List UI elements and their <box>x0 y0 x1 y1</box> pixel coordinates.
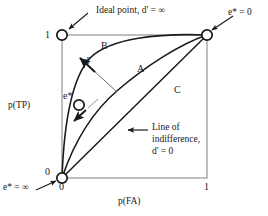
dprime-label: d' <box>84 55 91 66</box>
annotation-estar-infinity: e* = ∞ <box>3 182 29 193</box>
estar-direction-arrow <box>74 110 86 121</box>
y-tick-0: 0 <box>45 166 50 177</box>
marker-estar-operating-point <box>74 100 84 110</box>
annotation-indifference-line1: Line of <box>152 122 180 133</box>
leader-estar-zero <box>212 16 233 30</box>
roc-diagram-figure: Ideal point, d' = ∞ e* = 0 e* = ∞ B A C … <box>0 0 268 216</box>
annotation-indifference-line3: d' = 0 <box>152 146 173 157</box>
x-axis-label: p(FA) <box>118 196 141 207</box>
x-tick-0: 0 <box>59 181 64 192</box>
leader-estar-infinity <box>36 181 56 190</box>
curve-label-c: C <box>174 84 181 95</box>
x-tick-1: 1 <box>204 181 209 192</box>
estar-point-label: e* <box>63 90 72 101</box>
marker-estar-zero <box>202 30 212 40</box>
annotation-ideal-point: Ideal point, d' = ∞ <box>96 5 165 16</box>
annotation-estar-zero: e* = 0 <box>228 7 252 18</box>
y-tick-1: 1 <box>45 29 50 40</box>
curve-label-b: B <box>101 40 108 51</box>
y-axis-label: p(TP) <box>8 100 30 111</box>
curve-label-a: A <box>137 63 144 74</box>
dprime-tail-line <box>93 70 117 92</box>
annotation-indifference-line2: indifference, <box>152 134 200 145</box>
marker-ideal-point <box>57 30 67 40</box>
figure-canvas <box>0 0 268 216</box>
leader-ideal-point <box>69 13 88 29</box>
estar-direction-tail <box>88 99 98 108</box>
